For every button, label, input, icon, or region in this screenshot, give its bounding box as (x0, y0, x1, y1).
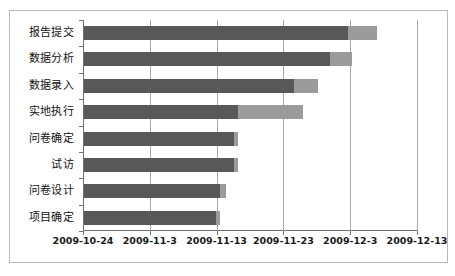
gantt-bar-duration-segment (238, 105, 303, 119)
gantt-chart-frame: 报告提交数据分析数据录入实地执行问卷确定试访问卷设计项目确定 2009-10-2… (9, 10, 448, 263)
category-axis-label: 实地执行 (29, 99, 74, 125)
category-axis-tick (79, 178, 83, 179)
category-axis-label: 问卷设计 (29, 178, 74, 204)
gantt-bar[interactable] (84, 105, 303, 119)
category-axis-tick (79, 99, 83, 100)
value-axis-tick-label: 2009-11-3 (123, 235, 177, 246)
category-axis-tick (79, 205, 83, 206)
category-axis-tick (79, 152, 83, 153)
gantt-bar[interactable] (84, 184, 226, 198)
value-axis-tick-label: 2009-10-24 (53, 235, 114, 246)
gantt-bar-offset-segment (84, 79, 294, 93)
category-axis-label: 报告提交 (29, 20, 74, 46)
gridline (417, 20, 418, 231)
gantt-bar-offset-segment (84, 132, 234, 146)
category-axis-label: 试访 (51, 152, 74, 178)
category-axis-tick (79, 20, 83, 21)
value-axis-tick-label: 2009-11-23 (253, 235, 314, 246)
gantt-bar-row[interactable] (83, 73, 417, 99)
gantt-bar[interactable] (84, 158, 238, 172)
gantt-bar-offset-segment (84, 105, 238, 119)
category-axis-label: 数据录入 (29, 73, 74, 99)
gantt-bar-offset-segment (84, 158, 234, 172)
gantt-bar-duration-segment (220, 184, 226, 198)
gantt-bar-offset-segment (84, 211, 216, 225)
gantt-bar-row[interactable] (83, 152, 417, 178)
gantt-bar-duration-segment (330, 52, 352, 66)
plot-area (83, 20, 417, 231)
gantt-bar-duration-segment (294, 79, 318, 93)
gantt-bar-row[interactable] (83, 205, 417, 231)
gantt-bar[interactable] (84, 211, 220, 225)
category-axis-label: 数据分析 (29, 46, 74, 72)
value-axis-tick-label: 2009-12-13 (387, 235, 448, 246)
category-axis-tick (79, 231, 83, 232)
gantt-bar-duration-segment (216, 211, 220, 225)
category-axis-tick (79, 73, 83, 74)
category-axis-label: 项目确定 (29, 205, 74, 231)
gantt-bar[interactable] (84, 132, 238, 146)
gantt-bar-row[interactable] (83, 99, 417, 125)
gantt-bar-offset-segment (84, 26, 348, 40)
gantt-bar-row[interactable] (83, 126, 417, 152)
gantt-bar-offset-segment (84, 184, 220, 198)
category-axis-label: 问卷确定 (29, 126, 74, 152)
category-axis-labels: 报告提交数据分析数据录入实地执行问卷确定试访问卷设计项目确定 (10, 20, 78, 231)
category-axis-tick (79, 46, 83, 47)
gantt-bar-row[interactable] (83, 178, 417, 204)
gantt-bar-row[interactable] (83, 20, 417, 46)
value-axis-tick-label: 2009-11-13 (186, 235, 247, 246)
gantt-bar[interactable] (84, 79, 318, 93)
gantt-bar[interactable] (84, 26, 377, 40)
gantt-bar-duration-segment (234, 132, 238, 146)
gantt-bar-duration-segment (348, 26, 377, 40)
value-axis-labels: 2009-10-242009-11-32009-11-132009-11-232… (83, 235, 443, 253)
gantt-bar-row[interactable] (83, 46, 417, 72)
value-axis-tick-label: 2009-12-3 (323, 235, 377, 246)
category-axis-tick (79, 126, 83, 127)
gantt-bar[interactable] (84, 52, 352, 66)
gantt-bar-offset-segment (84, 52, 330, 66)
gantt-bar-duration-segment (234, 158, 238, 172)
